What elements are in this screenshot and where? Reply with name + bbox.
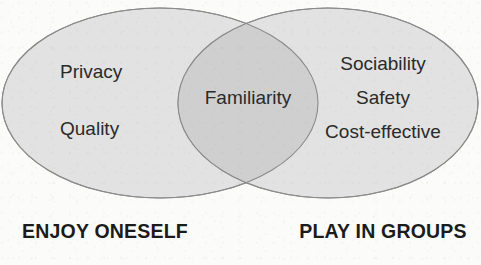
overlap-item-familiarity: Familiarity: [205, 88, 292, 107]
left-set-item-quality: Quality: [60, 119, 119, 138]
left-set-item-privacy: Privacy: [60, 62, 122, 81]
right-set-item-cost-effective: Cost-effective: [325, 122, 441, 141]
right-set-item-sociability: Sociability: [340, 54, 426, 73]
left-set-caption: ENJOY ONESELF: [22, 222, 188, 242]
right-set-item-safety: Safety: [356, 88, 410, 107]
right-set-caption: PLAY IN GROUPS: [299, 222, 467, 242]
venn-diagram: Privacy Quality Familiarity Sociability …: [0, 0, 481, 265]
